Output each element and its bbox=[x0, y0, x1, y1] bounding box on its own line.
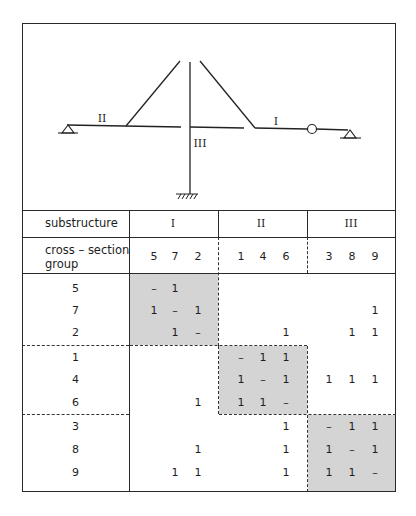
table-cell: – bbox=[342, 443, 362, 457]
table-cell: 1 bbox=[188, 443, 208, 457]
table-cell: 1 bbox=[342, 420, 362, 434]
row-label: 9 bbox=[22, 466, 129, 480]
dashed-row-sep-1 bbox=[130, 345, 307, 346]
table-cell: 1 bbox=[365, 373, 385, 387]
pin-support-right-icon bbox=[340, 130, 361, 138]
table-cell: 1 bbox=[342, 466, 362, 480]
group-col-header: 3 bbox=[319, 250, 339, 264]
substructure-divider-2 bbox=[307, 210, 308, 237]
substructure-header-II: II bbox=[246, 217, 276, 230]
dashed-divider-v1-lower bbox=[218, 346, 219, 414]
table-cell: – bbox=[165, 304, 185, 318]
dashed-row-sep-2-label bbox=[22, 414, 129, 415]
beam-left bbox=[67, 125, 181, 127]
group-col-header: 2 bbox=[188, 250, 208, 264]
hinge-icon bbox=[308, 125, 317, 134]
table-cell: 1 bbox=[253, 351, 273, 365]
table-cell: 1 bbox=[188, 396, 208, 410]
row-label: 1 bbox=[22, 351, 129, 365]
label-substructure-II: II bbox=[87, 112, 117, 125]
table-cell: 1 bbox=[319, 443, 339, 457]
row-label: 6 bbox=[22, 396, 129, 410]
group-col-header: 8 bbox=[342, 250, 362, 264]
table-cell: 1 bbox=[165, 282, 185, 296]
table-cell: 1 bbox=[276, 373, 296, 387]
group-col-header: 7 bbox=[165, 250, 185, 264]
group-col-header: 1 bbox=[231, 250, 251, 264]
fixed-support-icon bbox=[176, 194, 198, 199]
table-cell: – bbox=[144, 282, 164, 296]
header-divider-line bbox=[22, 237, 396, 238]
row-label: 8 bbox=[22, 443, 129, 457]
table-cell: – bbox=[276, 396, 296, 410]
table-cell: 1 bbox=[365, 443, 385, 457]
table-cell: 1 bbox=[144, 304, 164, 318]
table-cell: 1 bbox=[365, 326, 385, 340]
table-cell: 1 bbox=[165, 326, 185, 340]
table-cell: – bbox=[319, 420, 339, 434]
group-col-header: 4 bbox=[253, 250, 273, 264]
cross-section-header-line1: cross – section bbox=[45, 243, 129, 257]
table-cell: – bbox=[365, 466, 385, 480]
substructure-header-I: I bbox=[158, 217, 188, 230]
table-cell: 1 bbox=[276, 351, 296, 365]
dashed-row-sep-1-label bbox=[22, 345, 129, 346]
table-cell: 1 bbox=[188, 304, 208, 318]
table-cell: 1 bbox=[319, 466, 339, 480]
dashed-divider-v1-upper bbox=[218, 237, 219, 346]
table-cell: 1 bbox=[231, 373, 251, 387]
label-substructure-III: III bbox=[185, 137, 215, 150]
table-cell: 1 bbox=[253, 396, 273, 410]
group-col-header: 6 bbox=[276, 250, 296, 264]
table-cell: 1 bbox=[365, 420, 385, 434]
pin-support-left-icon bbox=[58, 125, 78, 133]
table-cell: – bbox=[188, 326, 208, 340]
table-cell: 1 bbox=[342, 326, 362, 340]
table-cell: 1 bbox=[276, 466, 296, 480]
table-cell: 1 bbox=[165, 466, 185, 480]
diagonal-right bbox=[200, 61, 255, 128]
substructure-header-label: substructure bbox=[45, 216, 118, 230]
table-cell: 1 bbox=[276, 420, 296, 434]
diagonal-left bbox=[126, 61, 180, 126]
table-cell: 1 bbox=[188, 466, 208, 480]
cross-section-header-line2: group bbox=[45, 257, 78, 271]
header-bottom-line bbox=[22, 273, 396, 274]
row-label: 4 bbox=[22, 373, 129, 387]
label-substructure-I: I bbox=[261, 115, 291, 128]
table-cell: 1 bbox=[276, 326, 296, 340]
group-col-header: 5 bbox=[144, 250, 164, 264]
table-top-line bbox=[22, 210, 396, 211]
table-cell: – bbox=[231, 351, 251, 365]
table-cell: 1 bbox=[319, 373, 339, 387]
table-cell: 1 bbox=[342, 373, 362, 387]
row-label: 3 bbox=[22, 420, 129, 434]
row-label: 7 bbox=[22, 304, 129, 318]
group-col-header: 9 bbox=[365, 250, 385, 264]
table-cell: – bbox=[253, 373, 273, 387]
substructure-header-III: III bbox=[336, 217, 366, 230]
dashed-divider-v2-upper bbox=[307, 237, 308, 273]
row-label: 2 bbox=[22, 326, 129, 340]
structure-schematic bbox=[0, 0, 416, 210]
table-cell: 1 bbox=[276, 443, 296, 457]
beam-right-2 bbox=[316, 129, 348, 130]
dashed-row-sep-2 bbox=[219, 414, 396, 415]
beam-center-right bbox=[190, 127, 244, 128]
substructure-divider-1 bbox=[218, 210, 219, 237]
beam-right-1 bbox=[255, 128, 307, 129]
table-cell: 1 bbox=[231, 396, 251, 410]
row-label: 5 bbox=[22, 282, 129, 296]
table-cell: 1 bbox=[365, 304, 385, 318]
dashed-divider-v2-lower bbox=[307, 346, 308, 492]
